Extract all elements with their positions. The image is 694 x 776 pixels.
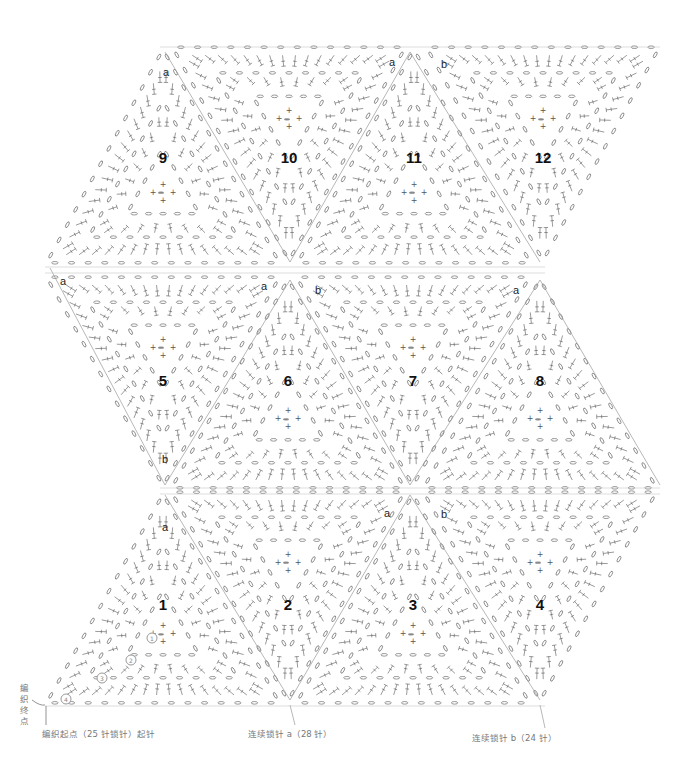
svg-text:+: + [285, 422, 292, 431]
motif-number-3: 3 [409, 596, 417, 613]
svg-text:+: + [540, 122, 547, 131]
svg-text:+: + [537, 566, 544, 575]
svg-text:+: + [401, 188, 408, 197]
join-seam [540, 705, 545, 728]
round-number-marker: 3 [97, 673, 108, 684]
chain-a-caption: 连续锁针 a（28 针） [248, 727, 332, 739]
join-seam [290, 52, 410, 262]
join-seam [410, 52, 540, 262]
join-label-a: a [60, 275, 66, 287]
motif-number-4: 4 [536, 596, 544, 613]
join-label-b: b [441, 58, 447, 70]
motif-number-9: 9 [159, 149, 167, 166]
motif-outlines: ++++++++++++++++++++++++++++++++++++++++… [48, 46, 658, 704]
svg-text:+: + [160, 180, 167, 189]
join-label-b: b [162, 453, 168, 465]
svg-text:+: + [170, 629, 177, 638]
join-seam [50, 268, 165, 485]
svg-text:+: + [550, 114, 557, 123]
join-chains [32, 47, 660, 728]
svg-text:+: + [410, 351, 417, 360]
round-number-marker: 2 [126, 655, 137, 666]
svg-text:+: + [160, 637, 167, 646]
motif-number-5: 5 [159, 372, 167, 389]
join-label-b: b [315, 284, 321, 296]
svg-text:+: + [160, 351, 167, 360]
svg-text:+: + [276, 114, 283, 123]
motif-number-11: 11 [406, 149, 422, 166]
start-point-caption: 编织起点（25 针锁针）起针 [42, 727, 155, 739]
motif-number-2: 2 [284, 596, 292, 613]
svg-text:+: + [421, 188, 428, 197]
join-seam [410, 280, 540, 485]
motif-number-10: 10 [281, 149, 298, 166]
svg-text:+: + [410, 637, 417, 646]
svg-text:+: + [150, 188, 157, 197]
svg-text:+: + [537, 550, 544, 559]
svg-text:+: + [170, 188, 177, 197]
svg-text:+: + [285, 566, 292, 575]
svg-text:+: + [160, 621, 167, 630]
svg-text:+: + [400, 629, 407, 638]
svg-text:+: + [420, 629, 427, 638]
end-pointer [32, 700, 45, 705]
svg-text:+: + [410, 335, 417, 344]
svg-text:+: + [410, 621, 417, 630]
join-label-a: a [513, 284, 519, 296]
svg-text:+: + [275, 414, 282, 423]
join-seam [290, 495, 410, 700]
round-number-marker: 4 [61, 694, 72, 705]
join-label-a: a [163, 66, 169, 78]
svg-text:+: + [527, 414, 534, 423]
svg-text:+: + [400, 343, 407, 352]
svg-text:+: + [285, 406, 292, 415]
motif-2: ++++ [173, 491, 403, 697]
svg-text:+: + [160, 196, 167, 205]
motif-4: ++++ [425, 491, 655, 697]
chain-b-caption: 连续锁针 b（24 针） [472, 731, 557, 743]
motif-number-8: 8 [536, 372, 544, 389]
svg-text:+: + [420, 343, 427, 352]
round-number-marker: 1 [147, 633, 158, 644]
motif-number-12: 12 [535, 149, 552, 166]
svg-text:+: + [537, 406, 544, 415]
svg-text:+: + [150, 343, 157, 352]
svg-text:+: + [547, 558, 554, 567]
svg-text:+: + [540, 106, 547, 115]
motif-number-7: 7 [409, 372, 417, 389]
join-seam [165, 495, 290, 700]
join-seam [290, 705, 295, 725]
motif-number-1: 1 [159, 596, 167, 613]
join-seam [165, 52, 290, 262]
end-point-caption: 编织终点 [20, 683, 30, 727]
join-label-a: a [162, 521, 168, 533]
svg-text:+: + [527, 558, 534, 567]
svg-text:+: + [170, 343, 177, 352]
join-seam [540, 280, 660, 485]
svg-text:+: + [295, 558, 302, 567]
svg-text:+: + [160, 335, 167, 344]
join-seam [165, 280, 290, 485]
svg-text:+: + [295, 414, 302, 423]
svg-text:+: + [547, 414, 554, 423]
svg-text:+: + [286, 122, 293, 131]
join-label-b: b [441, 508, 447, 520]
crochet-chart-canvas: ++++++++++++++++++++++++++++++++++++++++… [0, 0, 694, 776]
svg-text:+: + [275, 558, 282, 567]
svg-text:+: + [286, 106, 293, 115]
svg-text:+: + [411, 180, 418, 189]
join-seam [290, 280, 410, 485]
svg-text:+: + [530, 114, 537, 123]
join-label-a: a [384, 507, 390, 519]
join-label-a: a [261, 280, 267, 292]
motif-number-6: 6 [284, 372, 292, 389]
svg-text:+: + [285, 550, 292, 559]
svg-text:+: + [296, 114, 303, 123]
join-label-a: a [389, 56, 395, 68]
join-seam [410, 495, 540, 700]
svg-text:+: + [537, 422, 544, 431]
svg-text:+: + [411, 196, 418, 205]
